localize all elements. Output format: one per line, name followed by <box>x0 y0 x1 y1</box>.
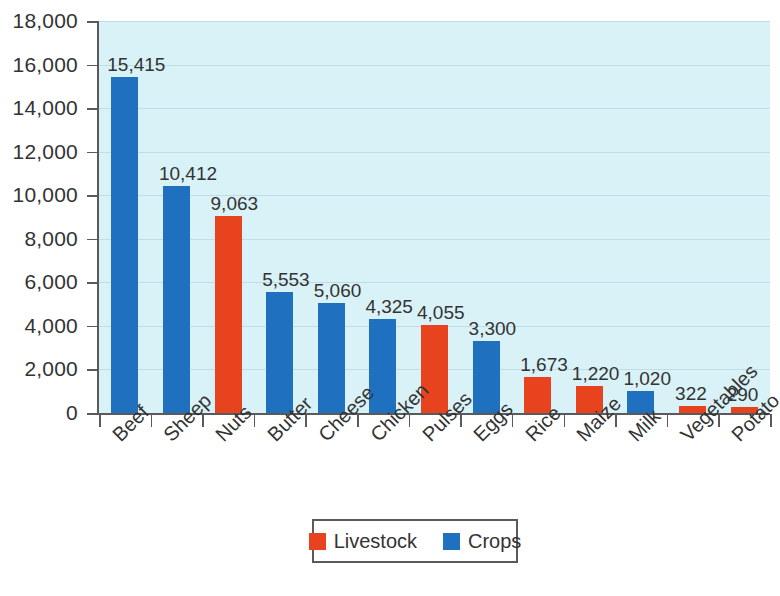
x-tick-mark <box>667 414 669 427</box>
x-tick-mark <box>718 414 720 427</box>
y-tick-label: 14,000 <box>13 96 78 120</box>
y-tick-mark <box>87 282 97 284</box>
x-tick-mark <box>615 414 617 427</box>
y-tick-mark <box>87 369 97 371</box>
x-tick-mark <box>99 414 101 427</box>
legend-item-livestock[interactable]: Livestock <box>309 530 417 553</box>
gridline <box>99 239 770 240</box>
y-tick-mark <box>87 413 97 415</box>
bar-sheep[interactable] <box>163 186 190 413</box>
bar-value-label: 1,020 <box>623 368 671 390</box>
bar-value-label: 4,325 <box>365 296 413 318</box>
gridline <box>99 195 770 196</box>
y-tick-mark <box>87 21 97 23</box>
bar-butter[interactable] <box>266 292 293 413</box>
y-tick-label: 8,000 <box>24 227 78 251</box>
bar-chart: 02,0004,0006,0008,00010,00012,00014,0001… <box>0 0 780 596</box>
y-tick-mark <box>87 65 97 67</box>
bar-value-label: 5,060 <box>314 280 362 302</box>
y-tick-label: 0 <box>66 401 78 425</box>
plot-area <box>99 21 770 413</box>
bar-value-label: 10,412 <box>159 163 217 185</box>
y-tick-mark <box>87 108 97 110</box>
x-tick-mark <box>305 414 307 427</box>
x-tick-mark <box>409 414 411 427</box>
legend-label: Crops <box>468 530 521 553</box>
bar-value-label: 4,055 <box>417 302 465 324</box>
x-tick-mark <box>202 414 204 427</box>
bar-value-label: 1,673 <box>520 354 568 376</box>
y-tick-mark <box>87 195 97 197</box>
bar-cheese[interactable] <box>318 303 345 413</box>
y-tick-label: 16,000 <box>13 53 78 77</box>
y-tick-label: 18,000 <box>13 9 78 33</box>
y-tick-label: 6,000 <box>24 270 78 294</box>
x-tick-mark <box>512 414 514 427</box>
bar-value-label: 3,300 <box>469 318 517 340</box>
x-tick-mark <box>357 414 359 427</box>
bar-beef[interactable] <box>111 77 138 413</box>
y-tick-label: 4,000 <box>24 314 78 338</box>
x-tick-mark <box>770 414 772 427</box>
legend-swatch-icon <box>443 533 460 550</box>
gridline <box>99 108 770 109</box>
y-tick-label: 2,000 <box>24 357 78 381</box>
legend-swatch-icon <box>309 533 326 550</box>
bar-nuts[interactable] <box>215 216 242 413</box>
y-tick-mark <box>87 239 97 241</box>
x-tick-mark <box>151 414 153 427</box>
bar-value-label: 9,063 <box>211 193 259 215</box>
y-axis-line <box>97 21 99 414</box>
y-tick-mark <box>87 326 97 328</box>
gridline <box>99 65 770 66</box>
gridline <box>99 282 770 283</box>
x-tick-mark <box>564 414 566 427</box>
legend-label: Livestock <box>334 530 417 553</box>
legend-item-crops[interactable]: Crops <box>443 530 521 553</box>
y-tick-label: 10,000 <box>13 183 78 207</box>
x-tick-mark <box>460 414 462 427</box>
gridline <box>99 152 770 153</box>
bar-value-label: 5,553 <box>262 269 310 291</box>
bar-value-label: 322 <box>675 383 707 405</box>
bar-value-label: 1,220 <box>572 363 620 385</box>
y-tick-mark <box>87 152 97 154</box>
gridline <box>99 21 770 22</box>
y-tick-label: 12,000 <box>13 140 78 164</box>
legend: LivestockCrops <box>312 519 518 563</box>
x-tick-mark <box>254 414 256 427</box>
bar-value-label: 15,415 <box>107 54 165 76</box>
